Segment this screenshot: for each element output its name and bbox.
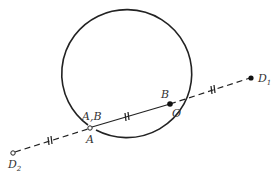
label-a-b: A,B [81, 110, 102, 123]
point-d2 [11, 151, 15, 155]
tick-mark-d2-a [48, 136, 52, 145]
label-a: A [85, 133, 94, 146]
point-o [167, 101, 173, 107]
point-a [88, 126, 92, 130]
label-d1: D1 [257, 72, 271, 87]
label-d2-main: D [7, 158, 17, 171]
label-b: B [160, 88, 169, 101]
solid-segment-a-o [92, 104, 170, 127]
label-d1-sub: 1 [267, 79, 271, 87]
label-d2: D2 [7, 158, 22, 173]
dashed-segment-o-d1 [170, 78, 250, 104]
label-o: O [172, 107, 181, 120]
diagram-canvas: A,B A B O D1 D2 [0, 0, 276, 176]
label-d2-sub: 2 [16, 165, 22, 173]
point-d1 [248, 75, 253, 80]
label-d1-main: D [257, 72, 267, 85]
